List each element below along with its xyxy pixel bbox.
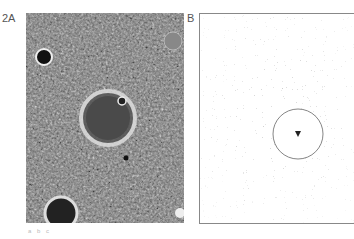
panel-b-crater-map xyxy=(199,13,354,224)
crater-outline-map xyxy=(200,14,354,223)
panel-a-label: 2A xyxy=(2,12,15,24)
crater-surface-image xyxy=(26,13,184,223)
panel-b-label: B xyxy=(187,12,194,24)
panel-a-crater-image xyxy=(26,13,184,223)
figure-caption: a b c xyxy=(28,228,51,234)
